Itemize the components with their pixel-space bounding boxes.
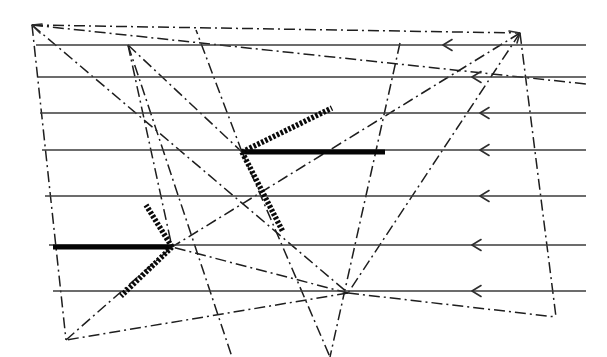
construction-line-c8 (348, 33, 520, 293)
construction-line-c3 (32, 25, 66, 340)
beaded-segment-b1 (242, 108, 332, 152)
construction-line-c10 (172, 33, 520, 247)
construction-line-c6 (128, 45, 172, 247)
streamline-arrow-group (443, 40, 489, 297)
construction-line-c4 (32, 25, 348, 293)
figure-root (0, 0, 607, 357)
construction-line-c2 (32, 25, 586, 84)
thick-solid-group (53, 152, 385, 247)
beaded-segment-b3 (146, 205, 172, 247)
construction-line-c17 (196, 30, 242, 152)
construction-line-c7 (128, 45, 232, 357)
construction-line-c12 (66, 293, 348, 340)
beaded-segment-group (121, 108, 332, 296)
streamline-group (36, 45, 586, 291)
construction-line-c9 (520, 33, 556, 317)
construction-line-c16 (330, 43, 400, 357)
construction-line-c1 (32, 25, 520, 33)
construction-line-c14 (66, 247, 172, 340)
ray-diagram-canvas (0, 0, 607, 357)
beaded-segment-b4 (121, 247, 172, 296)
construction-line-c13 (348, 293, 556, 317)
construction-line-group (32, 25, 586, 357)
construction-line-c5 (128, 45, 242, 152)
construction-line-c15 (242, 152, 330, 357)
